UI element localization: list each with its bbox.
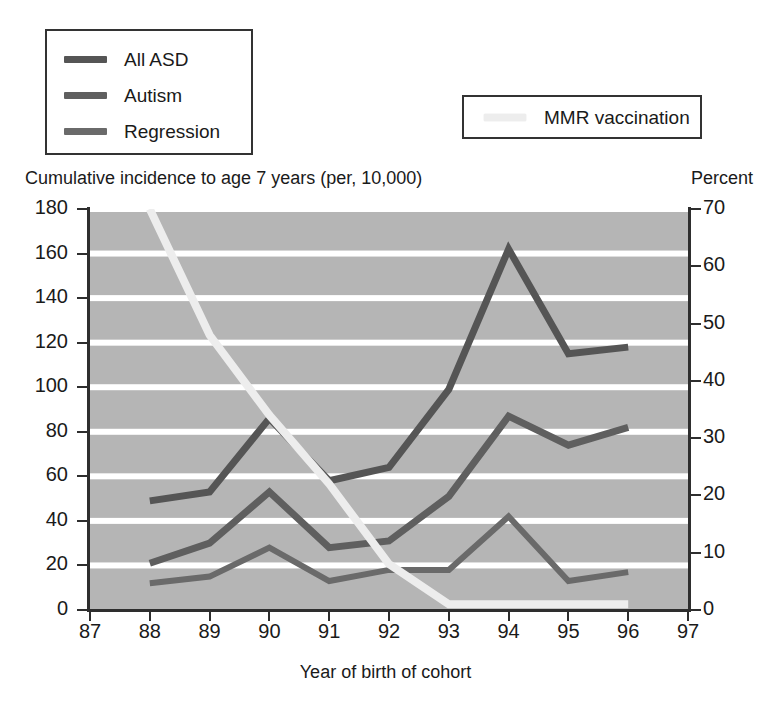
y-axis-right-tick-mark xyxy=(690,265,701,267)
x-axis-tick-label: 89 xyxy=(190,620,230,643)
y-axis-right-tick-mark xyxy=(690,609,701,611)
x-axis-tick-label: 90 xyxy=(249,620,289,643)
y-axis-left-tick-label: 120 xyxy=(35,330,68,353)
x-axis-tick-mark xyxy=(567,611,569,621)
series-line-regression xyxy=(150,516,628,583)
left-axis-title: Cumulative incidence to age 7 years (per… xyxy=(25,168,422,189)
y-axis-right-tick-label: 10 xyxy=(703,540,725,563)
series-line-all-asd xyxy=(150,249,628,501)
x-axis-tick-label: 95 xyxy=(548,620,588,643)
y-axis-right-tick-mark xyxy=(690,323,701,325)
y-axis-left-tick-mark xyxy=(77,475,88,477)
y-axis-left-tick-label: 0 xyxy=(57,597,68,620)
y-axis-left-tick-label: 80 xyxy=(46,419,68,442)
gridline xyxy=(90,340,688,346)
line-swatch-icon xyxy=(484,114,526,121)
y-axis-right-tick-label: 30 xyxy=(703,425,725,448)
y-axis-right-tick-mark xyxy=(690,552,701,554)
y-axis-left-tick-label: 180 xyxy=(35,196,68,219)
legend-label-autism: Autism xyxy=(124,86,182,105)
y-axis-left-tick-mark xyxy=(77,431,88,433)
y-axis-left-tick-mark xyxy=(77,253,88,255)
legend-label-regression: Regression xyxy=(124,122,220,141)
y-axis-right-tick-label: 70 xyxy=(703,196,725,219)
gridline xyxy=(90,251,688,257)
x-axis-tick-label: 93 xyxy=(429,620,469,643)
gridline xyxy=(90,384,688,390)
x-axis-tick-mark xyxy=(149,611,151,621)
x-axis-tick-mark xyxy=(508,611,510,621)
y-axis-right-tick-mark xyxy=(690,380,701,382)
legend-label-mmr: MMR vaccination xyxy=(544,108,690,127)
y-axis-left-tick-mark xyxy=(77,386,88,388)
right-axis-title: Percent xyxy=(691,168,753,189)
x-axis-tick-label: 96 xyxy=(608,620,648,643)
x-axis-tick-mark xyxy=(388,611,390,621)
series-line-mmr-vaccination xyxy=(150,209,628,604)
y-axis-left-tick-label: 60 xyxy=(46,463,68,486)
y-axis-right-tick-label: 50 xyxy=(703,311,725,334)
plot-area xyxy=(90,209,688,610)
x-axis-tick-mark xyxy=(209,611,211,621)
y-axis-left-tick-mark xyxy=(77,297,88,299)
y-axis-left-tick-mark xyxy=(77,609,88,611)
x-axis-tick-label: 97 xyxy=(668,620,708,643)
y-axis-right-tick-label: 0 xyxy=(703,597,714,620)
x-axis-tick-label: 88 xyxy=(130,620,170,643)
x-axis-tick-label: 92 xyxy=(369,620,409,643)
series-paths-group xyxy=(150,209,628,604)
x-axis-tick-mark xyxy=(627,611,629,621)
y-axis-left-tick-label: 40 xyxy=(46,508,68,531)
series-line-autism xyxy=(150,416,628,563)
y-axis-left-tick-label: 100 xyxy=(35,374,68,397)
x-axis-tick-mark xyxy=(328,611,330,621)
gridline xyxy=(90,518,688,524)
legend-item-all-asd: All ASD xyxy=(47,41,251,77)
x-axis-tick-mark xyxy=(89,611,91,621)
series-legend-box: All ASD Autism Regression xyxy=(45,29,253,155)
y-axis-right-tick-label: 40 xyxy=(703,368,725,391)
y-axis-left-tick-label: 20 xyxy=(46,552,68,575)
y-axis-left-tick-mark xyxy=(77,208,88,210)
y-axis-left-tick-label: 160 xyxy=(35,241,68,264)
y-axis-right-tick-label: 60 xyxy=(703,253,725,276)
y-axis-right-tick-mark xyxy=(690,437,701,439)
line-swatch-icon xyxy=(64,56,107,63)
y-axis-right-tick-label: 20 xyxy=(703,482,725,505)
legend-item-regression: Regression xyxy=(47,113,251,149)
x-axis-tick-mark xyxy=(448,611,450,621)
y-axis-left-tick-mark xyxy=(77,564,88,566)
gridline xyxy=(90,209,688,212)
gridline xyxy=(90,473,688,479)
legend-label-all-asd: All ASD xyxy=(124,50,188,69)
x-axis-tick-label: 91 xyxy=(309,620,349,643)
legend-item-autism: Autism xyxy=(47,77,251,113)
x-axis-tick-label: 87 xyxy=(70,620,110,643)
x-axis-tick-mark xyxy=(687,611,689,621)
gridline xyxy=(90,295,688,301)
y-axis-right-tick-mark xyxy=(690,208,701,210)
line-swatch-icon xyxy=(64,92,107,99)
y-axis-left-tick-mark xyxy=(77,520,88,522)
mmr-legend-box: MMR vaccination xyxy=(462,95,702,139)
y-axis-left-tick-mark xyxy=(77,342,88,344)
x-axis-title: Year of birth of cohort xyxy=(0,662,771,683)
y-axis-left-tick-label: 140 xyxy=(35,285,68,308)
x-axis-tick-label: 94 xyxy=(489,620,529,643)
y-axis-right-tick-mark xyxy=(690,494,701,496)
chart-canvas xyxy=(90,209,688,610)
y-axis-left-spine xyxy=(87,207,90,612)
line-swatch-icon xyxy=(64,128,107,135)
x-axis-tick-mark xyxy=(268,611,270,621)
